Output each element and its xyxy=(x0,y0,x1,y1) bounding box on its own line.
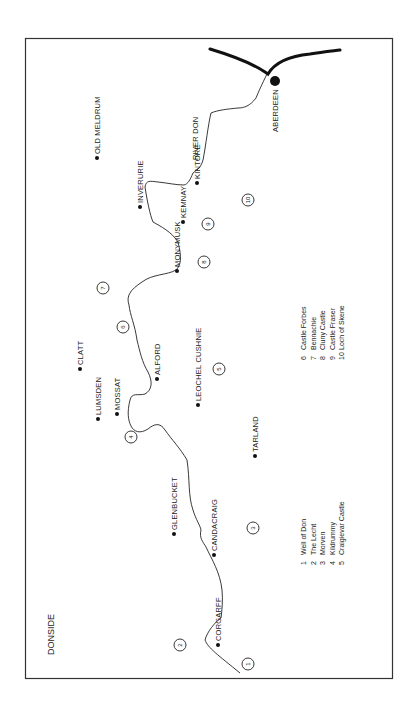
aberdeen-marker[interactable] xyxy=(270,76,280,86)
legend-number: 3 xyxy=(319,561,326,565)
town-marker xyxy=(138,205,142,209)
legend-number: 4 xyxy=(329,561,336,565)
town-label: CLATT xyxy=(76,341,85,365)
site-marker-6[interactable]: 6 xyxy=(117,321,129,333)
town-label: MOSSAT xyxy=(113,377,122,410)
town-marker xyxy=(172,532,176,536)
legend-item-7: 7Bennachie xyxy=(310,317,317,360)
coastline xyxy=(210,49,340,74)
legend-number: 6 xyxy=(300,356,307,360)
town-label: CANDACRAIG xyxy=(210,499,219,551)
town-label: TARLAND xyxy=(251,416,260,452)
legend-right: 6Castle Forbes7Bennachie8Cluny Castle9Ca… xyxy=(300,305,345,360)
legend-label: Kildrummy xyxy=(329,521,337,555)
town-alford[interactable]: ALFORD xyxy=(153,343,162,381)
site-marker-10[interactable]: 10 xyxy=(242,194,254,206)
town-kemnay[interactable]: KEMNAY xyxy=(179,186,188,224)
town-tarland[interactable]: TARLAND xyxy=(251,416,260,458)
legend-label: Well of Don xyxy=(300,519,307,555)
site-marker-8[interactable]: 8 xyxy=(198,256,210,268)
legend-label: Castle Fraser xyxy=(329,307,336,350)
site-marker-4[interactable]: 4 xyxy=(125,431,137,443)
legend-item-8: 8Cluny Castle xyxy=(319,310,327,360)
legend-number: 7 xyxy=(310,356,317,360)
site-marker-9[interactable]: 9 xyxy=(202,218,214,230)
legend-left: 1Well of Don2The Lecht3Morven4Kildrummy5… xyxy=(300,501,346,565)
site-marker-7[interactable]: 7 xyxy=(97,282,109,294)
legend-item-6: 6Castle Forbes xyxy=(300,306,307,360)
legend-number: 5 xyxy=(338,561,345,565)
town-clatt[interactable]: CLATT xyxy=(76,341,85,371)
site-number: 10 xyxy=(245,196,251,203)
legend-number: 1 xyxy=(300,561,307,565)
donside-map: ABERDEENOLD MELDRUMINVERURIEKINTOREKEMNA… xyxy=(0,0,414,703)
town-leochel-cushnie[interactable]: LEOCHEL CUSHNIE xyxy=(194,327,203,407)
town-lumsden[interactable]: LUMSDEN xyxy=(94,377,103,421)
town-corgarff[interactable]: CORGARFF xyxy=(214,597,223,647)
legend-item-2: 2The Lecht xyxy=(310,524,317,565)
site-marker-5[interactable]: 5 xyxy=(213,363,225,375)
site-marker-1[interactable]: 1 xyxy=(242,658,254,670)
town-marker xyxy=(212,553,216,557)
town-marker xyxy=(195,181,199,185)
town-aberdeen[interactable]: ABERDEEN xyxy=(271,89,280,132)
legend-number: 8 xyxy=(319,356,326,360)
town-marker xyxy=(155,377,159,381)
map-title: DONSIDE xyxy=(46,614,56,655)
town-old-meldrum[interactable]: OLD MELDRUM xyxy=(93,96,102,160)
legend-item-10: 10Loch of Skene xyxy=(338,305,345,360)
town-candacraig[interactable]: CANDACRAIG xyxy=(210,499,219,557)
legend-label: Morven xyxy=(319,532,326,555)
town-marker xyxy=(78,367,82,371)
town-label: ALFORD xyxy=(153,343,162,375)
town-mossat[interactable]: MOSSAT xyxy=(113,377,122,416)
legend-label: The Lecht xyxy=(310,524,317,555)
town-marker xyxy=(95,156,99,160)
town-label: INVERURIE xyxy=(136,160,145,203)
town-marker xyxy=(253,454,257,458)
town-label: ABERDEEN xyxy=(271,89,280,132)
legend-label: Craigievar Castle xyxy=(338,501,346,555)
town-inverurie[interactable]: INVERURIE xyxy=(136,160,145,209)
legend-item-9: 9Castle Fraser xyxy=(329,307,336,360)
town-marker xyxy=(175,269,179,273)
legend-item-1: 1Well of Don xyxy=(300,519,307,565)
legend-number: 10 xyxy=(338,352,345,360)
town-label: LUMSDEN xyxy=(94,377,103,415)
legend-item-5: 5Craigievar Castle xyxy=(338,501,346,565)
town-marker xyxy=(115,412,119,416)
legend-item-3: 3Morven xyxy=(319,532,326,565)
town-label: MONYMUSK xyxy=(173,221,182,267)
legend-number: 2 xyxy=(310,561,317,565)
town-label: CORGARFF xyxy=(214,597,223,641)
town-label: KEMNAY xyxy=(179,186,188,218)
site-marker-3[interactable]: 3 xyxy=(247,522,259,534)
legend-label: Cluny Castle xyxy=(319,310,327,350)
legend-label: Castle Forbes xyxy=(300,306,307,350)
town-label: GLENBUCKET xyxy=(170,477,179,530)
legend-label: Bennachie xyxy=(310,317,317,350)
town-label: OLD MELDRUM xyxy=(93,96,102,154)
legend-label: Loch of Skene xyxy=(338,305,345,350)
river-don-label: RIVER DON xyxy=(191,117,200,160)
town-marker xyxy=(96,417,100,421)
town-label: LEOCHEL CUSHNIE xyxy=(194,327,203,401)
legend-number: 9 xyxy=(329,356,336,360)
town-monymusk[interactable]: MONYMUSK xyxy=(173,221,182,273)
town-marker xyxy=(216,643,220,647)
town-marker xyxy=(196,403,200,407)
legend-item-4: 4Kildrummy xyxy=(329,521,337,565)
site-marker-2[interactable]: 2 xyxy=(174,639,186,651)
town-glenbucket[interactable]: GLENBUCKET xyxy=(170,477,179,536)
